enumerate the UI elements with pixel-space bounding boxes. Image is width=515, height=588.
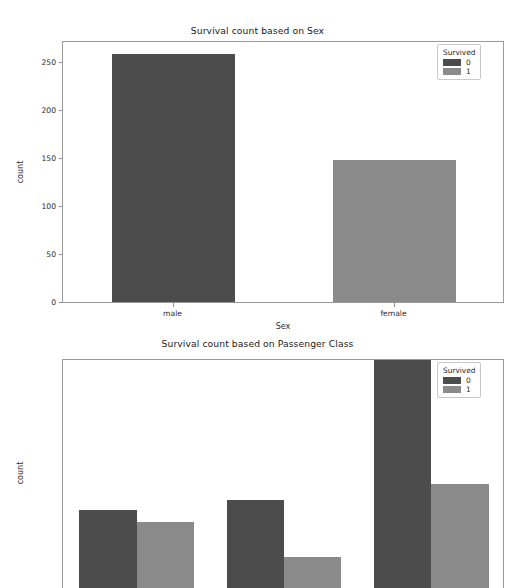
chart-title-class: Survival count based on Passenger Class [0, 338, 515, 349]
x-tick-label-female: female [380, 309, 406, 318]
chart-survival-by-class: Survival count based on Passenger Class … [0, 333, 515, 588]
y-tick-mark [59, 206, 63, 207]
legend-swatch-1 [443, 68, 461, 75]
legend-item-0[interactable]: 0 [443, 59, 475, 66]
legend-item-0[interactable]: 0 [443, 377, 475, 384]
y-tick-label: 0 [22, 298, 56, 307]
bar-1-survived-0 [79, 510, 136, 588]
legend-item-1[interactable]: 1 [443, 386, 475, 393]
bar-3-survived-0 [374, 359, 431, 588]
x-tick-label-male: male [163, 309, 182, 318]
legend-sex[interactable]: Survived 0 1 [437, 44, 481, 80]
bar-3-survived-1 [431, 484, 488, 588]
legend-class[interactable]: Survived 0 1 [437, 362, 481, 398]
legend-label-0: 0 [466, 377, 471, 384]
chart-survival-by-sex: Survival count based on Sex count Sex 05… [0, 0, 515, 335]
y-tick-mark [59, 62, 63, 63]
legend-title-class: Survived [443, 366, 475, 375]
y-axis-label-sex: count [16, 161, 25, 184]
y-tick-label: 100 [22, 202, 56, 211]
bar-2-survived-1 [284, 557, 341, 588]
y-tick-mark [59, 302, 63, 303]
figure-canvas: Survival count based on Sex count Sex 05… [0, 0, 515, 588]
plot-area-sex [62, 41, 504, 303]
bar-group-sex [63, 42, 503, 302]
x-tick-mark [394, 303, 395, 307]
y-axis-label-class: count [16, 462, 25, 485]
legend-swatch-0 [443, 377, 461, 384]
y-tick-mark [59, 158, 63, 159]
legend-label-1: 1 [466, 386, 471, 393]
legend-label-0: 0 [466, 59, 471, 66]
y-tick-label: 200 [22, 106, 56, 115]
chart-title-sex: Survival count based on Sex [0, 25, 515, 36]
y-tick-mark [59, 254, 63, 255]
legend-item-1[interactable]: 1 [443, 68, 475, 75]
legend-swatch-1 [443, 386, 461, 393]
y-tick-label: 250 [22, 58, 56, 67]
y-tick-label: 150 [22, 154, 56, 163]
legend-label-1: 1 [466, 68, 471, 75]
bar-male-survived-0 [112, 54, 236, 303]
bar-female-survived-1 [333, 160, 457, 303]
x-tick-mark [173, 303, 174, 307]
legend-swatch-0 [443, 59, 461, 66]
legend-title-sex: Survived [443, 48, 475, 57]
y-tick-mark [59, 110, 63, 111]
y-tick-label: 50 [22, 250, 56, 259]
bar-2-survived-0 [227, 500, 284, 588]
bar-1-survived-1 [137, 522, 194, 588]
x-axis-label-sex: Sex [276, 322, 291, 331]
